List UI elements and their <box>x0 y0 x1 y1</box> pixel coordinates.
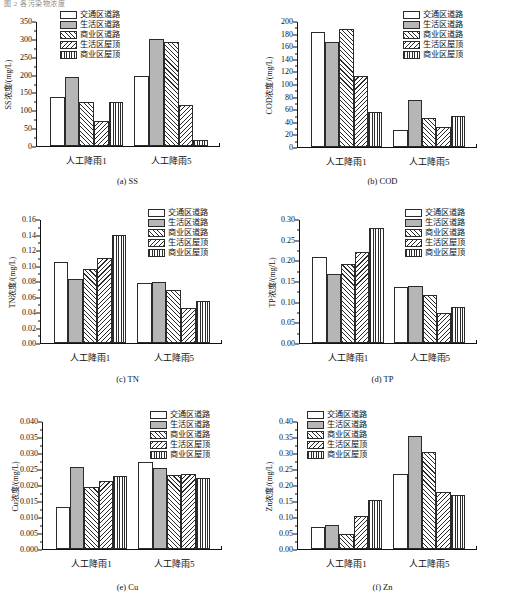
y-tick-label: 0.00 <box>279 546 293 554</box>
bar-b-2-3 <box>422 118 436 147</box>
bar-e-1-3 <box>84 487 98 549</box>
bar-b-1-1 <box>311 32 325 147</box>
y-tick-label: 0.020 <box>20 482 38 490</box>
subplot-caption-a: (a) SS <box>0 176 255 186</box>
legend-swatch-gray <box>60 21 77 29</box>
y-tick-label: 180 <box>281 31 293 39</box>
legend-label: 生活区屋顶 <box>423 41 463 49</box>
bar-a-2-3 <box>164 42 179 146</box>
y-axis-label-text: TN浓度/(mg/L) <box>7 256 18 308</box>
bar-c-2-2 <box>152 282 167 343</box>
y-axis-label-d: TP浓度/(mg/L) <box>265 220 277 344</box>
x-tick-label: 人工降雨1 <box>328 351 369 364</box>
x-tick-label: 人工降雨1 <box>70 351 111 364</box>
x-axis-line <box>36 146 220 147</box>
bar-group <box>311 22 383 147</box>
y-tick-label: 0.040 <box>20 418 38 426</box>
bar-f-1-4 <box>354 516 368 549</box>
subplot-caption-b: (b) COD <box>255 176 510 186</box>
y-tick-label: 0.005 <box>20 530 38 538</box>
bar-d-2-3 <box>423 295 437 343</box>
legend-item-5: 商业区屋顶 <box>148 248 208 258</box>
legend-swatch-back-hatch <box>307 441 324 449</box>
y-axis-label-text: TP浓度/(mg/L) <box>266 257 277 307</box>
x-tick-label: 人工降雨1 <box>71 557 112 570</box>
legend-label: 交通区道路 <box>327 411 367 419</box>
y-tick-label: 100 <box>281 81 293 89</box>
y-tick-label: 200 <box>281 18 293 26</box>
legend-label: 生活区道路 <box>425 219 465 227</box>
legend-swatch-forward-hatch <box>405 229 422 237</box>
y-tick-mark <box>36 344 40 345</box>
legend-swatch-vertical-lines <box>405 249 422 257</box>
y-axis-label-text: Cu浓度/(mg/L) <box>9 461 20 511</box>
legend-label: 交通区道路 <box>170 411 210 419</box>
y-tick-label: 0.40 <box>279 418 293 426</box>
bar-e-1-2 <box>70 467 84 549</box>
legend-item-4: 生活区屋顶 <box>148 238 208 248</box>
legend-swatch-back-hatch <box>403 41 420 49</box>
bar-f-1-3 <box>339 534 353 549</box>
legend-item-1: 交通区道路 <box>148 208 208 218</box>
bar-e-2-4 <box>181 474 195 549</box>
legend-swatch-white <box>405 209 422 217</box>
legend-item-4: 生活区屋顶 <box>60 40 120 50</box>
y-tick-label: 250 <box>20 54 32 62</box>
legend-f: 交通区道路生活区道路商业区道路生活区屋顶商业区屋顶 <box>307 410 367 460</box>
y-tick-label: 0.30 <box>281 216 295 224</box>
bar-a-1-5 <box>109 102 124 146</box>
y-tick-label: 140 <box>281 56 293 64</box>
legend-item-2: 生活区道路 <box>150 420 210 430</box>
legend-swatch-back-hatch <box>60 41 77 49</box>
legend-swatch-forward-hatch <box>403 31 420 39</box>
y-axis-label-a: SS浓度/(mg/L) <box>2 22 14 147</box>
bar-group <box>54 220 127 343</box>
legend-swatch-white <box>403 11 420 19</box>
bar-e-1-1 <box>56 507 70 549</box>
legend-c: 交通区道路生活区道路商业区道路生活区屋顶商业区屋顶 <box>148 208 208 258</box>
legend-label: 生活区道路 <box>423 21 463 29</box>
bar-d-1-4 <box>355 252 369 343</box>
legend-swatch-vertical-lines <box>150 451 167 459</box>
bar-c-1-5 <box>112 235 127 343</box>
legend-swatch-forward-hatch <box>148 229 165 237</box>
plot-area-c: TN浓度/(mg/L)0.000.020.040.060.080.100.120… <box>0 204 255 404</box>
legend-item-3: 商业区道路 <box>148 228 208 238</box>
legend-item-3: 商业区道路 <box>403 30 463 40</box>
y-tick-label: 0.08 <box>22 278 36 286</box>
bar-f-2-5 <box>451 495 465 549</box>
legend-label: 商业区屋顶 <box>170 451 210 459</box>
y-axis-label-f: Zn浓度/(mg/L) <box>263 422 275 550</box>
bar-b-2-4 <box>436 127 450 147</box>
legend-label: 商业区屋顶 <box>423 51 463 59</box>
legend-swatch-vertical-lines <box>60 51 77 59</box>
y-tick-label: 0.15 <box>281 278 295 286</box>
legend-label: 商业区屋顶 <box>80 51 120 59</box>
legend-label: 生活区道路 <box>327 421 367 429</box>
y-tick-label: 0.010 <box>20 514 38 522</box>
subplot-c: TN浓度/(mg/L)0.000.020.040.060.080.100.120… <box>0 204 255 404</box>
legend-label: 生活区道路 <box>80 21 120 29</box>
bar-group <box>56 422 128 549</box>
y-tick-label: 0.06 <box>22 294 36 302</box>
bar-d-2-4 <box>437 313 451 343</box>
subplot-b: COD浓度/(mg/L)020406080100120140160180200人… <box>255 8 510 204</box>
x-tick-label: 人工降雨5 <box>151 154 192 167</box>
y-axis-label-text: SS浓度/(mg/L) <box>3 60 14 110</box>
y-tick-label: 150 <box>20 89 32 97</box>
legend-item-1: 交通区道路 <box>405 208 465 218</box>
bar-b-2-2 <box>408 100 422 147</box>
legend-item-2: 生活区道路 <box>148 218 208 228</box>
subplot-e: Cu浓度/(mg/L)0.0000.0050.0100.0150.0200.02… <box>0 404 255 614</box>
bar-d-1-3 <box>341 264 355 343</box>
bar-d-1-1 <box>312 257 326 343</box>
bar-a-1-4 <box>94 121 109 146</box>
bar-a-2-4 <box>179 105 194 146</box>
bar-b-1-4 <box>354 76 368 147</box>
subplot-caption-d: (d) TP <box>255 374 510 384</box>
legend-label: 商业区屋顶 <box>168 249 208 257</box>
y-tick-mark <box>295 344 299 345</box>
bar-f-2-1 <box>393 474 407 549</box>
legend-swatch-back-hatch <box>150 441 167 449</box>
legend-label: 生活区屋顶 <box>327 441 367 449</box>
